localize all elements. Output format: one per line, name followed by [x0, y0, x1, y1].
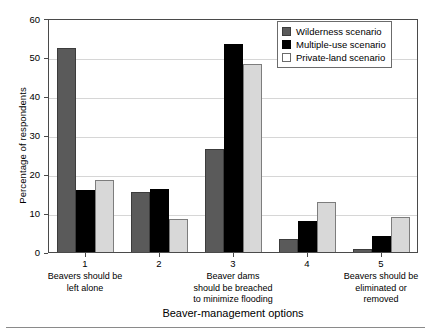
- y-tick-label-40: 40: [0, 92, 40, 102]
- bars: [196, 19, 270, 252]
- x-tick-1: 1Beavers should be left alone: [48, 253, 122, 299]
- bar-3-series-2[interactable]: [224, 44, 243, 252]
- y-tick-label-0: 0: [0, 248, 40, 258]
- bar-4-series-2[interactable]: [298, 221, 317, 252]
- beaver-management-bar-chart: Percentage of respondents 60 50 40 30 20…: [0, 0, 431, 335]
- bar-2-series-3[interactable]: [169, 219, 188, 252]
- bars: [122, 19, 196, 252]
- legend-label-3: Private-land scenario: [296, 52, 385, 63]
- legend-item-3[interactable]: Private-land scenario: [282, 51, 386, 64]
- bar-2-series-2[interactable]: [150, 189, 169, 252]
- x-tick-5: 5Beavers should be eliminated or removed: [344, 253, 418, 299]
- bars: [48, 19, 122, 252]
- bar-group-2: [122, 19, 196, 252]
- y-axis-title: Percentage of respondents: [17, 36, 28, 256]
- bar-5-series-2[interactable]: [372, 236, 391, 252]
- y-tick-label-10: 10: [0, 209, 40, 219]
- bar-4-series-1[interactable]: [279, 239, 298, 252]
- bar-1-series-2[interactable]: [76, 190, 95, 252]
- y-tick-label-50: 50: [0, 53, 40, 63]
- x-tick-mark-4: [307, 253, 308, 257]
- x-tick-label-5: 5: [344, 258, 418, 269]
- legend-swatch-icon-1: [282, 27, 291, 36]
- bar-5-series-1[interactable]: [353, 249, 372, 252]
- bar-group-3: [196, 19, 270, 252]
- bar-2-series-1[interactable]: [131, 192, 150, 252]
- legend-label-1: Wilderness scenario: [296, 26, 382, 37]
- x-tick-mark-5: [381, 253, 382, 257]
- legend-swatch-icon-2: [282, 40, 291, 49]
- x-tick-mark-1: [85, 253, 86, 257]
- x-tick-3: 3Beaver dams should be breached to minim…: [196, 253, 270, 299]
- x-tick-mark-2: [159, 253, 160, 257]
- bar-group-1: [48, 19, 122, 252]
- bar-4-series-3[interactable]: [317, 202, 336, 252]
- y-tick-label-20: 20: [0, 170, 40, 180]
- x-tick-mark-3: [233, 253, 234, 257]
- x-axis-ticks: 1Beavers should be left alone23Beaver da…: [48, 253, 418, 299]
- legend: Wilderness scenarioMultiple-use scenario…: [277, 21, 392, 68]
- bar-1-series-1[interactable]: [57, 48, 76, 252]
- x-tick-label-1: 1: [48, 258, 122, 269]
- legend-item-1[interactable]: Wilderness scenario: [282, 25, 386, 38]
- footer-rule: [6, 327, 425, 328]
- y-tick-label-30: 30: [0, 131, 40, 141]
- bar-3-series-3[interactable]: [243, 64, 262, 252]
- x-tick-label-3: 3: [196, 258, 270, 269]
- x-tick-label-2: 2: [122, 258, 196, 269]
- x-tick-sublabel-5: Beavers should be eliminated or removed: [322, 271, 431, 306]
- legend-swatch-icon-3: [282, 53, 291, 62]
- legend-item-2[interactable]: Multiple-use scenario: [282, 38, 386, 51]
- y-tick-label-60: 60: [0, 15, 40, 25]
- x-tick-label-4: 4: [270, 258, 344, 269]
- bar-3-series-1[interactable]: [205, 149, 224, 252]
- bar-5-series-3[interactable]: [391, 217, 410, 252]
- x-axis-title: Beaver-management options: [48, 307, 418, 319]
- bar-1-series-3[interactable]: [95, 180, 114, 252]
- legend-label-2: Multiple-use scenario: [296, 39, 386, 50]
